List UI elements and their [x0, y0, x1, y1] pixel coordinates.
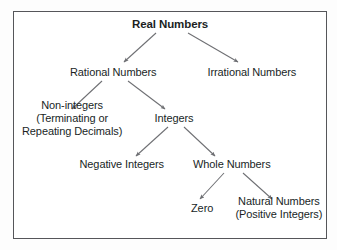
node-integers: Integers	[155, 112, 194, 125]
node-zero: Zero	[191, 202, 213, 215]
node-irrational: Irrational Numbers	[208, 66, 297, 79]
node-irrational-line-0: Irrational Numbers	[208, 66, 297, 79]
node-real: Real Numbers	[132, 18, 208, 31]
diagram-canvas: Real NumbersRational NumbersIrrational N…	[0, 0, 337, 250]
node-noninteger-line-1: (Terminating or	[22, 112, 122, 125]
node-noninteger: Non-integers(Terminating orRepeating Dec…	[22, 99, 122, 138]
node-natural-line-1: (Positive Integers)	[236, 208, 323, 221]
node-rational-line-0: Rational Numbers	[70, 66, 156, 79]
node-noninteger-line-2: Repeating Decimals)	[22, 125, 122, 138]
node-real-line-0: Real Numbers	[132, 18, 208, 31]
node-integers-line-0: Integers	[155, 112, 194, 125]
node-rational: Rational Numbers	[70, 66, 156, 79]
node-natural-line-0: Natural Numbers	[236, 195, 323, 208]
node-negative: Negative Integers	[80, 158, 165, 171]
node-natural: Natural Numbers(Positive Integers)	[236, 195, 323, 221]
node-noninteger-line-0: Non-integers	[22, 99, 122, 112]
node-zero-line-0: Zero	[191, 202, 213, 215]
node-whole-line-0: Whole Numbers	[193, 158, 271, 171]
node-whole: Whole Numbers	[193, 158, 271, 171]
node-negative-line-0: Negative Integers	[80, 158, 165, 171]
